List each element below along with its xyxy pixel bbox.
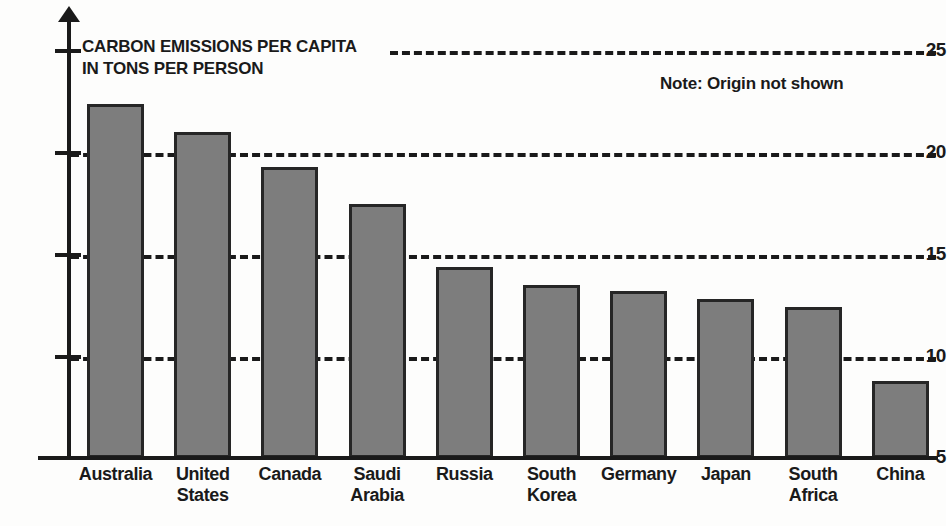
bar-germany [610,291,667,458]
x-axis-line [38,456,938,460]
bar-canada [261,167,318,458]
bar-united-states [174,132,231,458]
bar-south-korea [523,285,580,458]
bar-australia [87,104,144,458]
bar-china [872,381,929,458]
bar-japan [697,299,754,458]
bar-saudi-arabia [349,204,406,458]
x-label-china: China [840,464,951,485]
bar-russia [436,267,493,458]
bar-south-africa [785,307,842,458]
